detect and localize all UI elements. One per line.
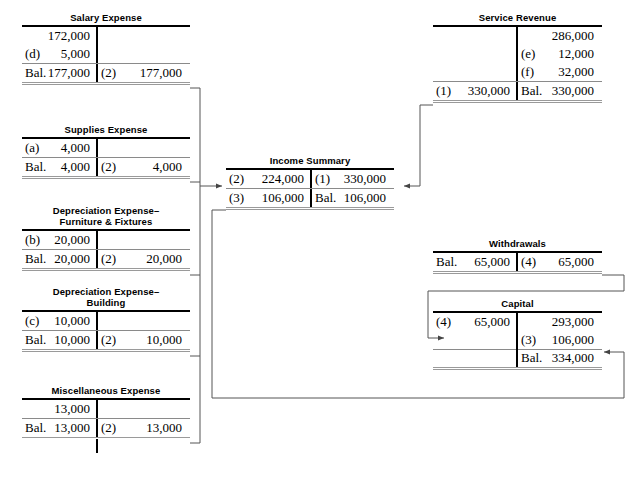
- row-ref: (2): [98, 65, 116, 81]
- row-ref: (4): [518, 254, 536, 270]
- row-amount: 10,000: [116, 332, 190, 348]
- taccount-row: (c) 10,000: [22, 312, 190, 330]
- taccount-row: (b) 20,000: [22, 231, 190, 249]
- row-ref: Bal.: [312, 190, 336, 206]
- row-ref: Bal.: [518, 83, 542, 99]
- row-ref: (e): [518, 46, 535, 62]
- taccount-divider: [516, 313, 518, 349]
- row-ref: (c): [22, 313, 39, 329]
- taccount-service-revenue: Service Revenue 286,000: [433, 12, 602, 103]
- taccount-divider: [310, 170, 312, 188]
- row-ref: (2): [226, 171, 244, 187]
- row-ref: (2): [98, 332, 116, 348]
- row-amount: 13,000: [116, 420, 190, 436]
- row-ref: (2): [98, 159, 116, 175]
- taccount-title: Depreciation Expense– Furniture & Fixtur…: [22, 205, 190, 227]
- row-amount: 10,000: [46, 332, 98, 348]
- taccount-title: Capital: [433, 298, 602, 309]
- row-ref: (d): [22, 46, 40, 62]
- taccount-divider: [516, 349, 518, 367]
- taccount-divider: [516, 27, 518, 81]
- taccount-divider: [96, 419, 98, 437]
- row-amount: 330,000: [542, 83, 602, 99]
- rule-double: [433, 367, 602, 370]
- row-amount: 4,000: [39, 140, 98, 156]
- row-ref: Bal.: [22, 159, 46, 175]
- row-ref: Bal.: [22, 251, 46, 267]
- row-amount: 334,000: [542, 350, 602, 366]
- rule-double: [22, 268, 190, 271]
- row-ref: (3): [518, 332, 536, 348]
- taccount-divider: [96, 439, 98, 453]
- taccount-balance-row: Bal. 20,000 (2) 20,000: [22, 250, 190, 268]
- taccount-capital: Capital (4) 65,000 293,000: [433, 298, 602, 370]
- rule-double: [22, 349, 190, 352]
- taccount-divider: [516, 253, 518, 271]
- row-amount: 20,000: [46, 251, 98, 267]
- taccount-divider: [516, 82, 518, 100]
- rule-double: [226, 207, 394, 210]
- row-amount: 13,000: [46, 420, 98, 436]
- row-amount: 4,000: [116, 159, 190, 175]
- rule-double: [22, 82, 190, 85]
- row-ref: (1): [433, 83, 451, 99]
- taccount-divider: [96, 27, 98, 63]
- t-account-diagram: Salary Expense 172,000 (d): [0, 0, 636, 481]
- taccount-divider: [96, 312, 98, 330]
- taccount-divider: [96, 139, 98, 157]
- row-amount: 177,000: [46, 65, 98, 81]
- row-amount: 13,000: [25, 401, 98, 417]
- row-amount: 5,000: [40, 46, 98, 62]
- taccount-depreciation-expense-furniture-fixtures: Depreciation Expense– Furniture & Fixtur…: [22, 205, 190, 271]
- row-amount: 10,000: [39, 313, 98, 329]
- taccount-withdrawals: Withdrawals Bal. 65,000 (4) 65,000: [433, 238, 602, 274]
- row-ref: (2): [98, 420, 116, 436]
- wire-revenue-to-summary: [404, 105, 433, 186]
- rule-double: [22, 176, 190, 179]
- row-amount: 286,000: [521, 28, 602, 44]
- taccount-row: 172,000: [22, 27, 190, 45]
- taccount-title: Withdrawals: [433, 238, 602, 249]
- row-amount: 65,000: [451, 314, 518, 330]
- taccount-income-summary: Income Summary (2) 224,000 (1) 330,000: [226, 155, 394, 210]
- taccount-divider: [310, 189, 312, 207]
- row-amount: 106,000: [336, 190, 394, 206]
- taccount-divider: [96, 158, 98, 176]
- taccount-row: (a) 4,000: [22, 139, 190, 157]
- rule-double: [433, 271, 602, 274]
- row-amount: 224,000: [244, 171, 312, 187]
- taccount-divider: [96, 231, 98, 249]
- taccount-balance-row: Bal. 10,000 (2) 10,000: [22, 331, 190, 349]
- row-amount: 12,000: [535, 46, 602, 62]
- taccount-divider: [96, 250, 98, 268]
- row-amount: 177,000: [116, 65, 190, 81]
- taccount-depreciation-expense-building: Depreciation Expense– Building (c) 10,00…: [22, 286, 190, 352]
- taccount-salary-expense: Salary Expense 172,000 (d): [22, 12, 190, 85]
- row-ref: Bal.: [22, 420, 46, 436]
- taccount-title: Miscellaneous Expense: [22, 385, 190, 396]
- row-ref: (3): [226, 190, 244, 206]
- taccount-balance-row: Bal. 13,000 (2) 13,000: [22, 419, 190, 437]
- taccount-title: Depreciation Expense– Building: [22, 286, 190, 308]
- taccount-title: Supplies Expense: [22, 124, 190, 135]
- row-ref: (b): [22, 232, 40, 248]
- row-ref: (f): [518, 64, 534, 80]
- row-ref: Bal.: [22, 332, 46, 348]
- taccount-miscellaneous-expense: Miscellaneous Expense 13,000: [22, 385, 190, 453]
- taccount-row: (d) 5,000: [22, 45, 190, 63]
- row-amount: 172,000: [25, 28, 98, 44]
- row-ref: Bal.: [518, 350, 542, 366]
- taccount-title: Income Summary: [226, 155, 394, 166]
- taccount-balance-row: Bal. 177,000 (2) 177,000: [22, 64, 190, 82]
- row-ref: (4): [433, 314, 451, 330]
- row-amount: 20,000: [116, 251, 190, 267]
- rule-double: [433, 100, 602, 103]
- taccount-balance-row: Bal. 4,000 (2) 4,000: [22, 158, 190, 176]
- row-amount: 293,000: [521, 314, 602, 330]
- taccount-supplies-expense: Supplies Expense (a) 4,000: [22, 124, 190, 179]
- row-amount: 106,000: [244, 190, 312, 206]
- row-amount: 106,000: [536, 332, 602, 348]
- taccount-title: Salary Expense: [22, 12, 190, 23]
- row-ref: (a): [22, 140, 39, 156]
- taccount-divider: [96, 400, 98, 418]
